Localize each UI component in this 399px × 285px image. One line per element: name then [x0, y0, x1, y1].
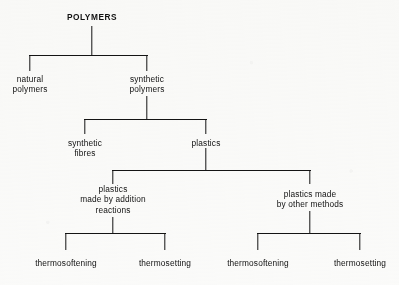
connector-drop-thermoset-add: [164, 233, 165, 250]
connector-drop-thermoset-oth: [359, 233, 360, 250]
node-polymers: POLYMERS: [67, 12, 117, 22]
connector-stem-addition: [112, 217, 113, 234]
connector-stem-polymers: [91, 26, 92, 55]
connector-stem-plastics: [205, 148, 206, 171]
node-synthetic-polymers: synthetic polymers: [130, 74, 165, 95]
connector-drop-natural: [29, 55, 30, 71]
connector-drop-synthetic: [146, 55, 147, 71]
connector-stem-other: [309, 211, 310, 234]
connector-bar-plastics: [112, 170, 311, 171]
connector-bar-synthetic: [84, 119, 207, 120]
node-plastics-other: plastics made by other methods: [277, 189, 344, 210]
node-thermosetting-addition: thermosetting: [139, 258, 191, 268]
connector-drop-thermosoft-oth: [257, 233, 258, 250]
node-thermosoftening-other: thermosoftening: [227, 258, 289, 268]
connector-bar-polymers: [29, 55, 148, 56]
node-natural-polymers: natural polymers: [13, 74, 48, 95]
node-synthetic-fibres: synthetic fibres: [68, 138, 102, 159]
node-plastics: plastics: [192, 138, 221, 148]
node-thermosetting-other: thermosetting: [334, 258, 386, 268]
connector-drop-other: [309, 170, 310, 184]
polymer-classification-diagram: POLYMERSnatural polymerssynthetic polyme…: [0, 0, 399, 285]
connector-drop-thermosoft-add: [65, 233, 66, 250]
node-thermosoftening-addition: thermosoftening: [35, 258, 97, 268]
node-plastics-addition: plastics made by addition reactions: [80, 184, 146, 215]
connector-drop-addition: [112, 170, 113, 184]
connector-drop-plastics: [205, 119, 206, 134]
connector-stem-synthetic: [146, 96, 147, 120]
connector-bar-other: [257, 233, 361, 234]
connector-bar-addition: [65, 233, 166, 234]
connector-drop-fibres: [84, 119, 85, 134]
